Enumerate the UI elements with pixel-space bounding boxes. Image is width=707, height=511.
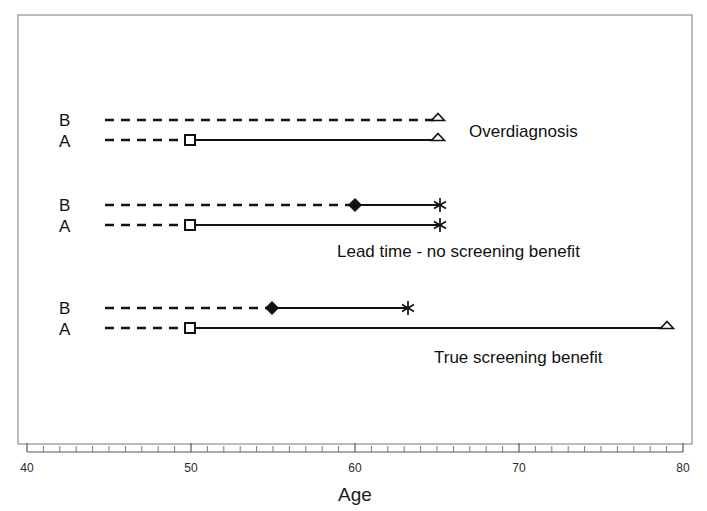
x-tick-label-70: 70 bbox=[512, 461, 526, 475]
plot-frame bbox=[18, 15, 692, 444]
series-true-benefit-a bbox=[105, 322, 674, 334]
series-true-benefit-b bbox=[105, 301, 414, 315]
filled-diamond-marker bbox=[266, 302, 279, 315]
screening-timeline-chart: B A Overdiagnosis bbox=[0, 0, 707, 511]
open-square-marker bbox=[185, 220, 195, 230]
annotation-overdiagnosis: Overdiagnosis bbox=[469, 122, 578, 141]
row-label-b: B bbox=[59, 299, 70, 318]
series-lead-time-a bbox=[105, 218, 446, 232]
open-triangle-marker bbox=[432, 134, 445, 141]
series-group-overdiagnosis: B A Overdiagnosis bbox=[59, 111, 578, 151]
x-tick-label-40: 40 bbox=[20, 461, 34, 475]
series-group-true-benefit: B A True screening benefit bbox=[59, 299, 674, 367]
figure-container: B A Overdiagnosis bbox=[0, 0, 707, 511]
series-overdiagnosis-b bbox=[105, 114, 445, 121]
x-tick-label-80: 80 bbox=[676, 461, 690, 475]
series-group-lead-time: B A Lead time - no screening benefit bbox=[59, 196, 580, 261]
annotation-lead-time: Lead time - no screening benefit bbox=[337, 242, 580, 261]
x-tick-label-50: 50 bbox=[184, 461, 198, 475]
series-overdiagnosis-a bbox=[105, 134, 445, 146]
open-square-marker bbox=[185, 135, 195, 145]
series-lead-time-b bbox=[105, 198, 446, 212]
open-triangle-marker bbox=[432, 114, 445, 121]
row-label-a: A bbox=[59, 320, 71, 339]
row-label-b: B bbox=[59, 111, 70, 130]
row-label-a: A bbox=[59, 132, 71, 151]
row-label-b: B bbox=[59, 196, 70, 215]
x-axis: 40 50 60 70 80 Age bbox=[20, 443, 690, 505]
annotation-true-benefit: True screening benefit bbox=[434, 348, 603, 367]
open-square-marker bbox=[185, 323, 195, 333]
x-axis-title: Age bbox=[338, 484, 372, 505]
filled-diamond-marker bbox=[349, 199, 362, 212]
open-triangle-marker bbox=[661, 322, 674, 329]
x-tick-label-60: 60 bbox=[348, 461, 362, 475]
row-label-a: A bbox=[59, 217, 71, 236]
